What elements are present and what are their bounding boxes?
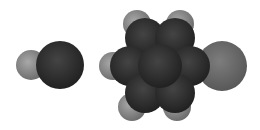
dark-atom <box>36 41 84 89</box>
diatomic-molecule <box>16 41 84 89</box>
substituted-benzene <box>99 10 247 121</box>
molecule-figure <box>0 0 260 130</box>
